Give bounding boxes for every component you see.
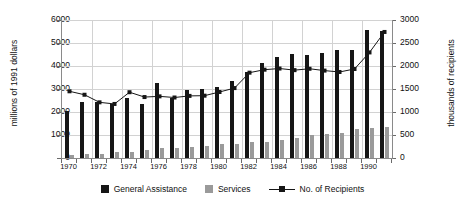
recipients-data-point-marker <box>203 94 207 98</box>
recipients-data-point-marker <box>248 71 252 75</box>
right-axis-tick-label: 2500 <box>400 37 440 47</box>
legend-label-no-of-recipients: No. of Recipients <box>300 184 365 194</box>
plot-area <box>61 20 393 159</box>
right-axis-tick-label: 1000 <box>400 106 440 116</box>
recipients-line <box>70 32 385 104</box>
recipients-data-point-marker <box>338 70 342 74</box>
recipients-data-point-marker <box>263 68 267 72</box>
x-axis-tick-mark <box>121 159 122 163</box>
x-axis-tick-label: 1984 <box>264 162 294 171</box>
x-axis-tick-mark <box>331 159 332 163</box>
x-axis-tick-label: 1990 <box>354 162 384 171</box>
x-axis-tick-mark <box>196 159 197 163</box>
x-axis-tick-mark <box>136 159 137 163</box>
chart-container: millions of 1991 dollars thousands of re… <box>0 0 465 213</box>
legend-item-services[interactable]: Services <box>205 184 251 194</box>
recipients-data-point-marker <box>323 69 327 73</box>
recipients-data-point-marker <box>173 96 177 100</box>
x-axis-tick-label: 1970 <box>54 162 84 171</box>
recipients-data-point-marker <box>383 30 387 34</box>
x-axis-tick-label: 1972 <box>84 162 114 171</box>
x-axis-tick-mark <box>106 159 107 163</box>
x-axis-tick-mark <box>241 159 242 163</box>
x-axis-tick-mark <box>91 159 92 163</box>
x-axis-tick-mark <box>301 159 302 163</box>
legend-swatch-square-gray-icon <box>205 185 213 193</box>
recipients-data-point-marker <box>68 89 72 93</box>
x-axis-tick-mark <box>346 159 347 163</box>
x-axis-tick-mark <box>271 159 272 163</box>
x-axis-tick-mark <box>361 159 362 163</box>
right-axis-tick-label: 3000 <box>400 14 440 24</box>
x-axis-tick-mark <box>61 159 62 163</box>
x-axis-tick-mark <box>256 159 257 163</box>
x-axis-tick-label: 1974 <box>114 162 144 171</box>
x-axis-tick-label: 1978 <box>174 162 204 171</box>
legend-item-no-of-recipients[interactable]: No. of Recipients <box>269 184 365 194</box>
recipients-data-point-marker <box>158 94 162 98</box>
chart-legend: General Assistance Services No. of Recip… <box>0 184 465 194</box>
recipients-data-point-marker <box>278 67 282 71</box>
right-axis-tick-label: 2000 <box>400 60 440 70</box>
recipients-data-point-marker <box>308 67 312 71</box>
legend-swatch-line-marker-icon <box>269 185 295 193</box>
recipients-data-point-marker <box>233 86 237 90</box>
x-axis-tick-mark <box>226 159 227 163</box>
recipients-data-point-marker <box>143 95 147 99</box>
right-axis-tick-label: 1500 <box>400 83 440 93</box>
x-axis-tick-mark <box>181 159 182 163</box>
x-axis-tick-label: 1988 <box>324 162 354 171</box>
x-axis-tick-label: 1986 <box>294 162 324 171</box>
x-axis-tick-label: 1982 <box>234 162 264 171</box>
legend-label-services: Services <box>218 184 251 194</box>
recipients-data-point-marker <box>218 90 222 94</box>
recipients-data-point-marker <box>353 67 357 71</box>
recipients-data-point-marker <box>293 68 297 72</box>
right-axis-tick-label: 500 <box>400 129 440 139</box>
x-axis-tick-label: 1980 <box>204 162 234 171</box>
x-axis-tick-mark <box>166 159 167 163</box>
x-axis-tick-mark <box>211 159 212 163</box>
recipients-data-point-marker <box>113 102 117 106</box>
recipients-data-point-marker <box>128 90 132 94</box>
right-axis-tick-label: 0 <box>400 152 440 162</box>
legend-label-general-assistance: General Assistance <box>114 184 187 194</box>
x-axis-tick-mark <box>316 159 317 163</box>
recipients-markers <box>68 30 387 106</box>
recipients-data-point-marker <box>188 94 192 98</box>
legend-swatch-square-black-icon <box>101 185 109 193</box>
x-axis-tick-mark <box>391 159 392 163</box>
x-axis-tick-mark <box>286 159 287 163</box>
line-series-recipients <box>62 20 392 158</box>
x-axis-tick-mark <box>76 159 77 163</box>
x-axis-tick-mark <box>151 159 152 163</box>
right-axis-title: thousands of recipients <box>446 23 456 143</box>
recipients-data-point-marker <box>83 93 87 97</box>
x-axis-tick-label: 1976 <box>144 162 174 171</box>
recipients-data-point-marker <box>368 50 372 54</box>
recipients-data-point-marker <box>98 100 102 104</box>
legend-item-general-assistance[interactable]: General Assistance <box>101 184 187 194</box>
x-axis-tick-mark <box>376 159 377 163</box>
left-axis-title: millions of 1991 dollars <box>9 23 19 143</box>
